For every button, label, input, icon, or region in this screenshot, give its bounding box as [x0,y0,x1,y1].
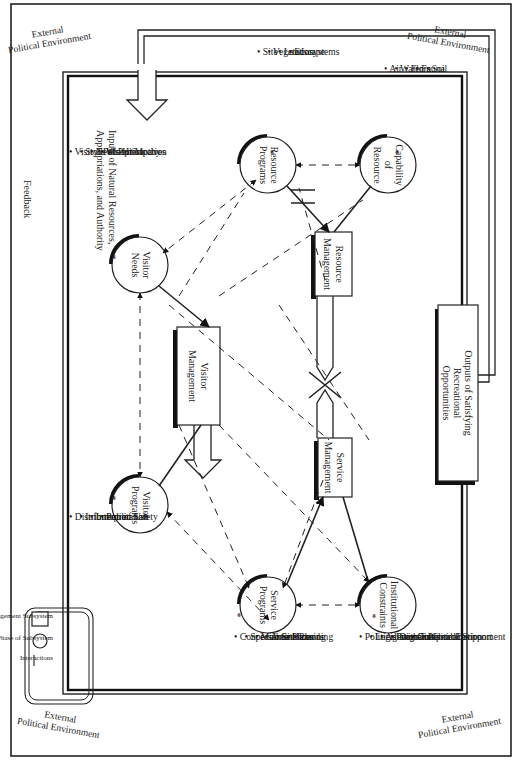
list-item: • Hazards [287,631,324,642]
resource-management-line-1: Resource [334,245,345,283]
service-management-line-2: Management [323,441,334,493]
service-programs-line1: Service [269,590,280,621]
visitor-management-line-2: Management [187,350,198,402]
service-mgmt-service-programs-dash [283,480,323,588]
capability-of-resource-line3: Resource [372,146,383,184]
list-item: • Soil [426,63,448,74]
capability-of-resource-circle: CapabilityofResource [359,136,416,193]
institutional-from-service-management [343,497,369,584]
outputs-box: Outputs of Satisfying Recreational Oppor… [435,305,478,485]
asterisk: * [232,613,243,618]
service-programs-to-service-management [287,497,323,584]
resource-programs-visitor-needs [163,180,256,253]
capability-of-resource-line2: of [383,161,394,170]
asterisk: * [107,255,118,260]
feedback-label: Feedback [22,180,33,218]
institutional-constraints-line1: Institutional [389,581,400,630]
list-item: • Visitor Motives [101,146,167,157]
legend-label-line: Interactions [20,654,53,662]
recreation-management-system-diagram: VisitorManagementResourceManagementServi… [0,0,519,764]
resource-management-line-2: Management [322,238,333,290]
visitor-management-service-programs [179,425,249,588]
asterisk: * [265,150,276,155]
capability-from-resource-management [334,186,371,232]
resource-to-institutional-dash [279,305,369,440]
list-item: • Ecosystems [289,46,340,57]
environment-label-top-right: ExternalPolitical Environment [406,20,492,55]
asterisk: * [367,614,378,619]
service-management-box: ServiceManagement [314,438,352,500]
visitor-needs-to-visitor-management [159,286,209,327]
service-management-line-1: Service [335,453,346,484]
environment-label-top-left: ExternalPolitical Environment [6,20,92,55]
resource-programs-circle: ResourcePrograms [239,136,296,193]
list-item: • Public Safety [101,511,158,522]
diagram-stage: VisitorManagementResourceManagementServi… [0,0,519,764]
service-programs-line2: Programs [258,586,269,624]
visitor-needs-circle: VisitorNeeds [111,236,168,293]
asterisk: * [390,150,401,155]
resource-management-box: ResourceManagement [311,232,352,299]
institutional-constraints-circle: InstitutionalConstraints [359,576,416,633]
environment-label-bottom-left: ExternalPolitical Environment [16,705,102,740]
visitor-needs-line1: Visitor [141,251,152,279]
outputs-line-1: Outputs of Satisfying [463,350,474,436]
visitor-needs-line2: Needs [130,253,141,278]
resource-programs-to-resource-management [287,186,329,232]
list-item: • Political Support [422,631,493,642]
legend-label-rectangle: Management Subsystem [0,612,54,620]
outputs-line-3: Opportunities [441,366,452,421]
visitor-management-line-1: Visitor [199,362,210,390]
visitor-management-resource-programs [179,193,244,296]
legend-label-circle: Phase of Subsystem [0,634,54,642]
inputs-arrow [127,70,167,120]
asterisk: * [107,496,118,501]
institutional-constraints-line2: Constraints [378,582,389,628]
outputs-line-2: Recreational [452,368,463,419]
environment-label-bottom-right: ExternalPolitical Environment [416,705,502,740]
